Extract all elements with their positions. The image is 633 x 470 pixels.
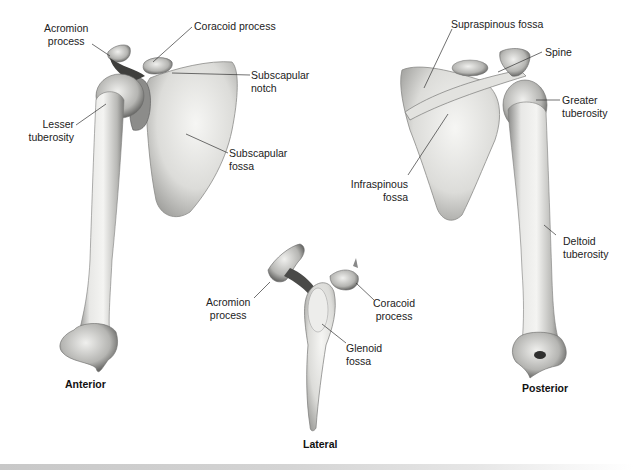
label-line: Subscapular	[229, 147, 287, 160]
bone-illustrations	[0, 0, 633, 470]
label-line: process	[44, 35, 88, 48]
anterior-scapula	[145, 62, 237, 217]
label-line: Subscapular	[251, 69, 309, 82]
posterior-humerus	[508, 102, 560, 345]
label-anterior-coracoid-process: Coracoid process	[194, 20, 276, 33]
anterior-humerus	[78, 92, 124, 338]
label-line: fossa	[346, 355, 382, 368]
label-line: fossa	[229, 160, 287, 173]
posterior-view-bones	[401, 49, 567, 378]
label-line: Infraspinous	[340, 178, 408, 191]
label-line: process	[373, 310, 415, 323]
label-spine: Spine	[545, 46, 572, 59]
label-greater-tuberosity: Greater tuberosity	[562, 94, 608, 119]
view-title-lateral: Lateral	[303, 438, 337, 450]
view-title-posterior: Posterior	[522, 382, 568, 394]
anatomy-figure: Acromion process Coracoid process Subsca…	[0, 0, 633, 470]
label-subscapular-fossa: Subscapular fossa	[229, 147, 287, 172]
label-line: Acromion	[206, 296, 250, 309]
label-line: Glenoid	[346, 342, 382, 355]
label-line: Lesser	[26, 118, 74, 131]
label-lateral-coracoid-process: Coracoid process	[373, 297, 415, 322]
view-title-anterior: Anterior	[65, 378, 106, 390]
label-line: tuberosity	[26, 131, 74, 144]
label-line: Deltoid	[563, 235, 609, 248]
label-line: Greater	[562, 94, 608, 107]
label-infraspinous-fossa: Infraspinous fossa	[340, 178, 408, 203]
label-subscapular-notch: Subscapular notch	[251, 69, 309, 94]
label-deltoid-tuberosity: Deltoid tuberosity	[563, 235, 609, 260]
label-line: tuberosity	[562, 107, 608, 120]
label-line: Coracoid process	[194, 20, 276, 33]
label-line: process	[206, 309, 250, 322]
label-line: fossa	[340, 191, 408, 204]
lateral-view-bones	[268, 244, 358, 431]
label-line: tuberosity	[563, 248, 609, 261]
label-line: notch	[251, 82, 309, 95]
bottom-gradient-bar	[0, 464, 633, 470]
label-lateral-acromion-process: Acromion process	[206, 296, 250, 321]
anterior-view-bones	[60, 45, 237, 372]
label-line: Acromion	[44, 22, 88, 35]
label-lesser-tuberosity: Lesser tuberosity	[26, 118, 74, 143]
label-supraspinous-fossa: Supraspinous fossa	[451, 18, 543, 31]
label-anterior-acromion-process: Acromion process	[44, 22, 88, 47]
label-glenoid-fossa: Glenoid fossa	[346, 342, 382, 367]
label-line: Supraspinous fossa	[451, 18, 543, 31]
label-line: Coracoid	[373, 297, 415, 310]
label-line: Spine	[545, 46, 572, 59]
